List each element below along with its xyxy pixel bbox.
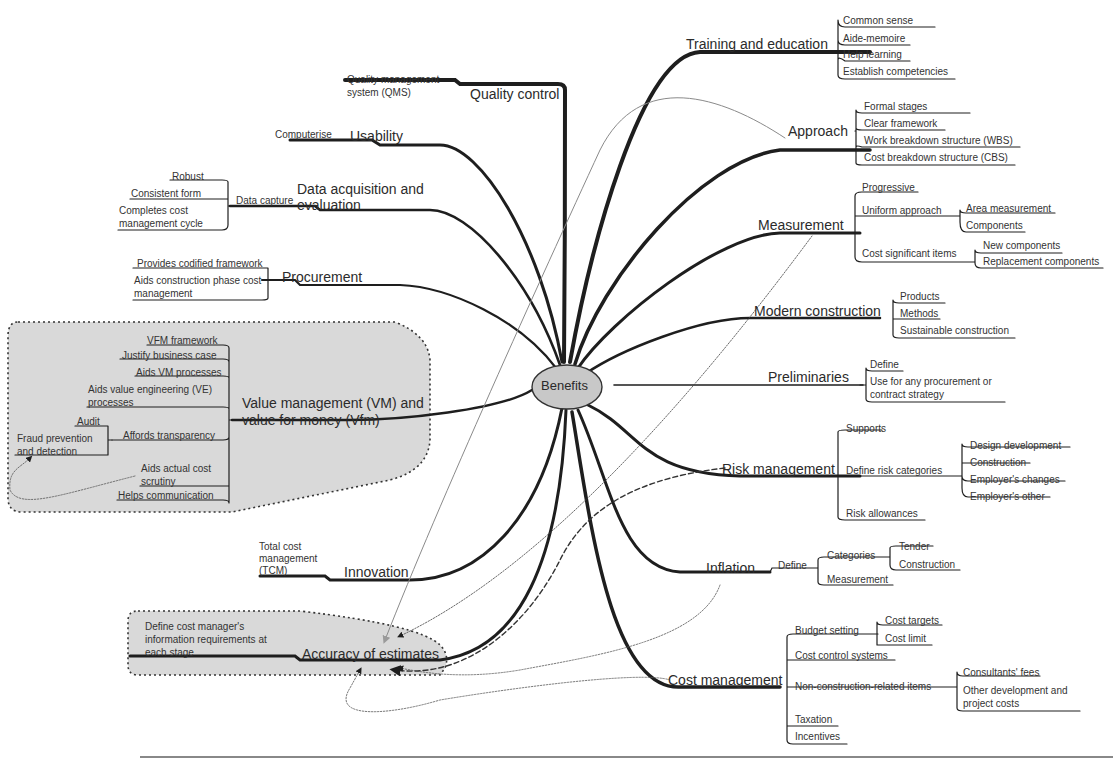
leaf-area-measurement[interactable]: Area measurement — [966, 203, 1051, 215]
leaf-taxation[interactable]: Taxation — [795, 714, 832, 726]
leaf-cost-limit[interactable]: Cost limit — [885, 633, 926, 645]
branch-procurement[interactable]: Procurement — [282, 269, 362, 285]
leaf-other-development-line2[interactable]: project costs — [963, 698, 1019, 710]
leaf-fraud-line2[interactable]: and detection — [17, 446, 77, 458]
leaf-methods[interactable]: Methods — [900, 308, 938, 320]
leaf-robust[interactable]: Robust — [172, 171, 204, 183]
node-categories[interactable]: Categories — [827, 550, 875, 562]
branch-quality-control[interactable]: Quality control — [470, 86, 559, 102]
leaf-fraud-line1[interactable]: Fraud prevention — [17, 433, 93, 445]
branch-data-acquisition-line2[interactable]: evaluation — [297, 197, 361, 213]
leaf-aids-scrutiny-line2[interactable]: scrutiny — [141, 476, 175, 488]
leaf-other-development-line1[interactable]: Other development and — [963, 685, 1068, 697]
leaf-procurement-strategy-line1[interactable]: Use for any procurement or — [870, 376, 992, 388]
leaf-justify-business-case[interactable]: Justify business case — [122, 350, 217, 362]
leaf-aids-construction-line1[interactable]: Aids construction phase cost — [134, 275, 261, 287]
branch-preliminaries[interactable]: Preliminaries — [768, 369, 849, 385]
leaf-supports[interactable]: Supports — [846, 423, 886, 435]
branch-training-and-education[interactable]: Training and education — [686, 36, 828, 52]
leaf-aids-ve-line1[interactable]: Aids value engineering (VE) — [88, 384, 212, 396]
leaf-construction-inflation[interactable]: Construction — [899, 559, 955, 571]
leaf-new-components[interactable]: New components — [983, 240, 1060, 252]
branch-inflation[interactable]: Inflation — [706, 560, 755, 576]
branch-modern-construction[interactable]: Modern construction — [754, 303, 881, 319]
branch-innovation[interactable]: Innovation — [344, 564, 409, 580]
leaf-consistent-form[interactable]: Consistent form — [131, 188, 201, 200]
leaf-consultants-fees[interactable]: Consultants' fees — [963, 667, 1039, 679]
leaf-cost-targets[interactable]: Cost targets — [885, 615, 939, 627]
leaf-sustainable-construction[interactable]: Sustainable construction — [900, 325, 1009, 337]
leaf-clear-framework[interactable]: Clear framework — [864, 118, 937, 130]
leaf-define-requirements-line1[interactable]: Define cost manager's — [145, 621, 244, 633]
leaf-aids-scrutiny-line1[interactable]: Aids actual cost — [141, 463, 211, 475]
node-cost-significant-items[interactable]: Cost significant items — [862, 248, 956, 260]
leaf-replacement-components[interactable]: Replacement components — [983, 256, 1099, 268]
leaf-completes-cycle-line1[interactable]: Completes cost — [119, 205, 188, 217]
leaf-risk-allowances[interactable]: Risk allowances — [846, 508, 918, 520]
leaf-wbs[interactable]: Work breakdown structure (WBS) — [864, 135, 1013, 147]
leaf-computerise[interactable]: Computerise — [275, 129, 332, 141]
leaf-vfm-framework[interactable]: VFM framework — [147, 335, 218, 347]
leaf-progressive[interactable]: Progressive — [862, 182, 915, 194]
branch-data-acquisition-line1[interactable]: Data acquisition and — [297, 181, 424, 197]
branch-usability[interactable]: Usability — [350, 128, 403, 144]
leaf-design-development[interactable]: Design development — [970, 440, 1061, 452]
leaf-measurement-inflation[interactable]: Measurement — [827, 574, 888, 586]
leaf-formal-stages[interactable]: Formal stages — [864, 101, 927, 113]
node-define-inflation[interactable]: Define — [778, 560, 807, 572]
leaf-tcm-line1[interactable]: Total cost — [259, 541, 301, 553]
node-data-capture[interactable]: Data capture — [236, 195, 293, 207]
leaf-tcm-line2[interactable]: management — [259, 553, 317, 565]
leaf-helps-communication[interactable]: Helps communication — [118, 490, 214, 502]
node-budget-setting[interactable]: Budget setting — [795, 625, 859, 637]
branch-cost-management[interactable]: Cost management — [668, 672, 782, 688]
leaf-construction-risk[interactable]: Construction — [970, 457, 1026, 469]
node-affords-transparency[interactable]: Affords transparency — [123, 430, 215, 442]
branch-accuracy-of-estimates[interactable]: Accuracy of estimates — [302, 646, 439, 662]
leaf-completes-cycle-line2[interactable]: management cycle — [119, 218, 203, 230]
leaf-codified-framework[interactable]: Provides codified framework — [137, 258, 263, 270]
leaf-qms-line2[interactable]: system (QMS) — [347, 87, 411, 99]
leaf-establish-competencies[interactable]: Establish competencies — [843, 66, 948, 78]
leaf-audit[interactable]: Audit — [77, 416, 100, 428]
leaf-aids-construction-line2[interactable]: management — [134, 288, 192, 300]
leaf-employers-changes[interactable]: Employer's changes — [970, 474, 1060, 486]
center-node-label[interactable]: Benefits — [541, 379, 588, 394]
branch-measurement[interactable]: Measurement — [758, 217, 844, 233]
leaf-aids-vm-processes[interactable]: Aids VM processes — [136, 367, 222, 379]
leaf-aide-memoire[interactable]: Aide-memoire — [843, 33, 905, 45]
leaf-cbs[interactable]: Cost breakdown structure (CBS) — [864, 152, 1008, 164]
leaf-define-requirements-line2[interactable]: information requirements at — [145, 634, 267, 646]
leaf-incentives[interactable]: Incentives — [795, 731, 840, 743]
node-uniform-approach[interactable]: Uniform approach — [862, 205, 941, 217]
node-non-construction-items[interactable]: Non-construction-related items — [795, 681, 931, 693]
branch-risk-management[interactable]: Risk management — [722, 461, 835, 477]
leaf-define-prelim[interactable]: Define — [870, 359, 899, 371]
leaf-procurement-strategy-line2[interactable]: contract strategy — [870, 389, 944, 401]
leaf-common-sense[interactable]: Common sense — [843, 15, 913, 27]
leaf-qms-line1[interactable]: Quality management — [347, 74, 439, 86]
node-define-risk-categories[interactable]: Define risk categories — [846, 465, 942, 477]
leaf-components[interactable]: Components — [966, 220, 1023, 232]
leaf-tcm-line3[interactable]: (TCM) — [259, 565, 287, 577]
leaf-aids-ve-line2[interactable]: processes — [88, 397, 134, 409]
branch-value-management-line2[interactable]: value for money (Vfm) — [242, 412, 380, 428]
leaf-cost-control-systems[interactable]: Cost control systems — [795, 650, 888, 662]
leaf-tender[interactable]: Tender — [899, 541, 930, 553]
leaf-help-learning[interactable]: Help learning — [843, 49, 902, 61]
branch-value-management-line1[interactable]: Value management (VM) and — [242, 395, 424, 411]
leaf-products[interactable]: Products — [900, 291, 939, 303]
leaf-employers-other[interactable]: Employer's other — [970, 491, 1045, 503]
leaf-define-requirements-line3[interactable]: each stage — [145, 647, 194, 659]
branch-approach[interactable]: Approach — [788, 123, 848, 139]
